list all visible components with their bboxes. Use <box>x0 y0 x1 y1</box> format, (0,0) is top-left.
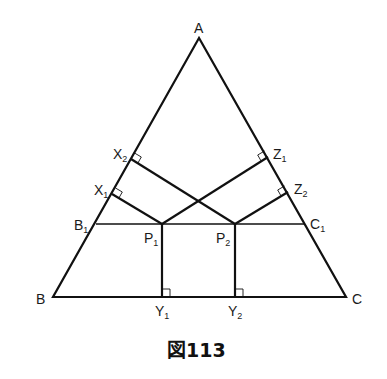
label-x2: X2 <box>113 146 127 164</box>
label-c1: C1 <box>310 216 325 234</box>
label-z1: Z1 <box>273 146 287 164</box>
triangle-abc <box>53 38 346 297</box>
right-angle-y1 <box>162 289 170 297</box>
label-x1: X1 <box>94 182 108 200</box>
segment-p1-x1 <box>112 194 162 224</box>
label-p2: P2 <box>216 230 230 248</box>
label-p1: P1 <box>144 230 158 248</box>
label-y2: Y2 <box>228 303 242 321</box>
perpendicular-segments <box>112 157 288 297</box>
label-b1: B1 <box>74 217 88 235</box>
triangle-diagram: A B C B1 C1 P1 P2 X1 X2 Y1 Y2 Z1 Z2 図113 <box>0 0 387 379</box>
label-c: C <box>352 291 362 307</box>
label-y1: Y1 <box>155 303 169 321</box>
label-a: A <box>194 20 204 36</box>
point-labels: A B C B1 C1 P1 P2 X1 X2 Y1 Y2 Z1 Z2 <box>36 20 362 321</box>
label-z2: Z2 <box>294 181 308 199</box>
right-angle-y2 <box>235 289 243 297</box>
segment-p2-z2 <box>235 192 288 224</box>
label-b: B <box>36 291 45 307</box>
figure-caption: 図113 <box>167 339 226 361</box>
